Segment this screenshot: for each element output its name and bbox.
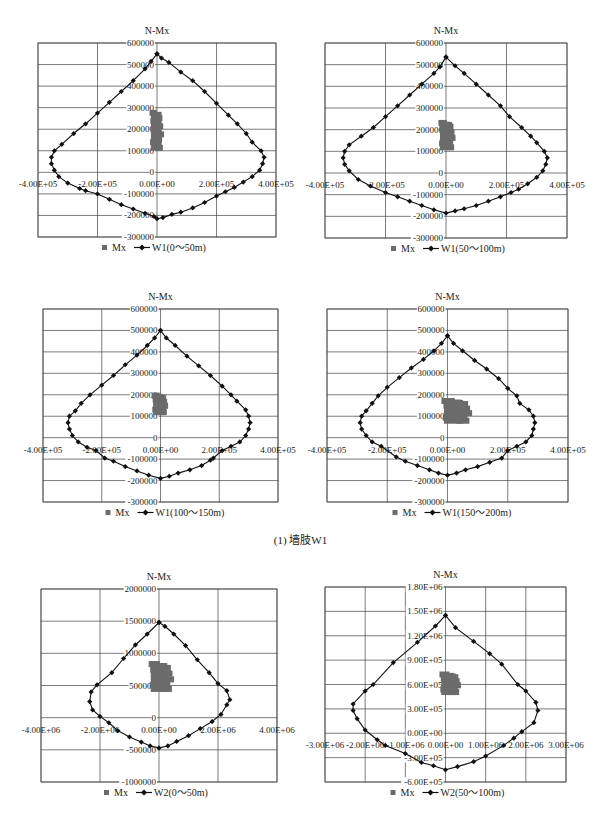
legend-mx-label: Mx <box>403 507 417 518</box>
y-tick-label: 0 <box>439 168 444 178</box>
y-tick-label: 600000 <box>416 38 444 48</box>
mx-points <box>149 661 174 692</box>
chart-title: N-Mx <box>145 25 169 36</box>
chart-2: N-Mx600000500000400000300000200000100000… <box>306 25 585 255</box>
legend-curve-label: W1(150～200m) <box>443 507 512 519</box>
y-tick-label: -1000000 <box>122 777 157 787</box>
y-tick-label: 300000 <box>131 368 159 378</box>
y-tick-label: -3.00E+05 <box>404 753 443 763</box>
figure-caption: (1) 墙肢W1 <box>0 531 601 547</box>
y-tick-label: 400000 <box>418 347 446 357</box>
chart-6: N-Mx1.80E+061.50E+061.20E+069.00E+056.00… <box>306 569 584 799</box>
chart-4: N-Mx600000500000400000300000200000100000… <box>308 291 586 519</box>
chart-title: N-Mx <box>434 25 458 36</box>
legend-mx-label: Mx <box>401 243 415 254</box>
chart-5: N-Mx2000000150000010000005000000-500000-… <box>22 571 295 799</box>
legend-curve-marker <box>143 510 149 516</box>
legend-curve-label: W1(50～100m) <box>441 243 505 255</box>
legend-mx-marker <box>106 510 111 515</box>
legend-mx-marker <box>104 790 109 795</box>
x-tick-label: 2.00E+06 <box>200 725 236 735</box>
legend-curve-label: W1(100～150m) <box>156 507 225 519</box>
legend-mx-label: Mx <box>116 507 130 518</box>
legend-curve-marker <box>141 790 147 796</box>
legend-mx-marker <box>391 246 396 251</box>
x-tick-label: 4.00E+05 <box>258 179 294 189</box>
y-tick-label: -300000 <box>415 497 445 507</box>
x-tick-label: -1.00E+06 <box>386 740 425 750</box>
y-tick-label: -100000 <box>128 454 158 464</box>
y-tick-label: 0.00E+00 <box>407 728 443 738</box>
x-tick-label: -4.00E+05 <box>306 180 345 190</box>
y-tick-label: -200000 <box>415 476 445 486</box>
x-tick-label: 3.00E+06 <box>548 740 584 750</box>
y-tick-label: 600000 <box>127 38 155 48</box>
y-tick-label: 100000 <box>418 411 446 421</box>
x-tick-label: 4.00E+05 <box>260 445 296 455</box>
y-tick-label: 1000000 <box>125 648 157 658</box>
y-tick-label: 1.80E+06 <box>407 582 443 592</box>
y-tick-label: -6.00E+05 <box>404 777 443 787</box>
y-tick-label: 9.00E+05 <box>407 655 443 665</box>
legend-mx-marker <box>102 245 107 250</box>
mx-points <box>441 398 472 424</box>
mx-points <box>152 393 168 416</box>
legend-mx-label: Mx <box>112 242 126 253</box>
y-tick-label: 500000 <box>131 325 159 335</box>
y-tick-label: 300000 <box>416 103 444 113</box>
y-tick-label: 6.00E+05 <box>407 680 443 690</box>
mx-points <box>439 672 461 696</box>
legend: MxW1(100～150m) <box>106 507 225 519</box>
y-tick-label: 1.50E+06 <box>407 606 443 616</box>
chart-title: N-Mx <box>147 571 171 582</box>
legend-curve-label: W2(0～50m) <box>154 787 208 799</box>
legend-mx-label: Mx <box>401 787 415 798</box>
legend-mx-marker <box>393 510 398 515</box>
y-tick-label: 0 <box>440 433 445 443</box>
x-tick-label: 0.00E+00 <box>428 740 464 750</box>
x-tick-label: 4.00E+05 <box>550 445 586 455</box>
x-tick-label: -2.00E+05 <box>366 180 405 190</box>
x-tick-label: -2.00E+06 <box>346 740 385 750</box>
y-tick-label: 600000 <box>131 304 159 314</box>
x-tick-label: -4.00E+05 <box>308 445 347 455</box>
y-tick-label: -300000 <box>128 497 158 507</box>
y-tick-label: 200000 <box>127 124 155 134</box>
y-tick-label: 500000 <box>418 325 446 335</box>
legend-curve-marker <box>139 245 145 251</box>
y-tick-label: -300000 <box>124 232 154 242</box>
legend: MxW2(0～50m) <box>104 787 208 799</box>
x-tick-label: 0.00E+00 <box>428 180 464 190</box>
y-tick-label: -100000 <box>124 189 154 199</box>
x-tick-label: 4.00E+06 <box>259 725 295 735</box>
x-tick-label: 0.00E+00 <box>143 445 179 455</box>
x-tick-label: 4.00E+05 <box>549 180 585 190</box>
x-tick-label: 0.00E+00 <box>139 179 175 189</box>
y-tick-label: -100000 <box>413 190 443 200</box>
legend-curve-marker <box>430 510 436 516</box>
x-tick-label: -4.00E+06 <box>22 725 61 735</box>
mx-points <box>438 120 455 150</box>
chart-title: N-Mx <box>433 569 457 580</box>
x-tick-label: 0.00E+00 <box>141 725 177 735</box>
x-tick-label: -2.00E+06 <box>81 725 120 735</box>
x-tick-label: -3.00E+06 <box>306 740 345 750</box>
chart-title: N-Mx <box>435 291 459 302</box>
y-tick-label: 1500000 <box>125 616 157 626</box>
figure-canvas: N-Mx600000500000400000300000200000100000… <box>0 0 601 819</box>
x-tick-label: -4.00E+05 <box>24 445 63 455</box>
y-tick-label: 0 <box>153 433 158 443</box>
chart-title: N-Mx <box>148 291 172 302</box>
y-tick-label: 0 <box>152 713 157 723</box>
y-tick-label: 200000 <box>416 125 444 135</box>
legend-mx-label: Mx <box>114 787 128 798</box>
y-tick-label: 300000 <box>418 368 446 378</box>
legend-curve-label: W1(0～50m) <box>152 242 206 254</box>
legend: MxW2(50～100m) <box>391 787 505 799</box>
y-tick-label: 2000000 <box>125 584 157 594</box>
legend: MxW1(150～200m) <box>393 507 512 519</box>
y-tick-label: 100000 <box>127 146 155 156</box>
y-tick-label: -200000 <box>413 211 443 221</box>
y-tick-label: 600000 <box>418 304 446 314</box>
legend: MxW1(50～100m) <box>391 243 505 255</box>
